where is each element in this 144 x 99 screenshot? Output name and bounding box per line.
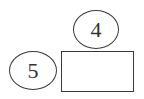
answer-box [61,51,134,92]
oval-left: 5 [9,51,57,90]
oval-top-label: 4 [91,17,102,43]
oval-left-label: 5 [28,58,39,84]
oval-top: 4 [73,10,119,49]
